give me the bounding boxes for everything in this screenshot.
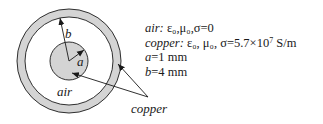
copper-name: copper: bbox=[145, 36, 184, 50]
air-values: ε₀,μ₀,σ=0 bbox=[167, 21, 214, 35]
copper-unit: S/m bbox=[273, 36, 296, 50]
label-copper: copper bbox=[131, 101, 168, 116]
label-air: air bbox=[57, 84, 73, 99]
label-a: a bbox=[77, 54, 84, 69]
copper-values: ε₀, μ₀, σ=5.7×10 bbox=[187, 36, 269, 50]
copper-exponent: 7 bbox=[269, 36, 273, 45]
label-b: b bbox=[65, 26, 72, 41]
material-properties: air: ε₀,μ₀,σ=0 copper: ε₀, μ₀, σ=5.7×107… bbox=[145, 21, 296, 79]
b-dimension: =4 mm bbox=[151, 65, 187, 79]
air-name: air: bbox=[145, 21, 164, 35]
air-properties: air: ε₀,μ₀,σ=0 bbox=[145, 21, 296, 36]
copper-properties: copper: ε₀, μ₀, σ=5.7×107 S/m bbox=[145, 36, 296, 51]
a-dimension: =1 mm bbox=[151, 50, 187, 64]
a-value: a=1 mm bbox=[145, 50, 296, 65]
b-value: b=4 mm bbox=[145, 65, 296, 80]
